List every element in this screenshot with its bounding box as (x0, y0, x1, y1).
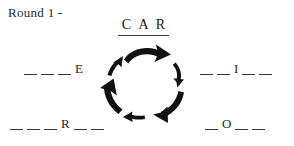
arrow-left-small (108, 61, 119, 76)
cycle-arrows-svg (99, 40, 195, 130)
clockwise-arrow-cycle (99, 40, 195, 130)
left-word-slot: E (22, 62, 85, 75)
round-label: Round 1 - (8, 6, 63, 19)
letter-cell: E (75, 62, 83, 75)
blank-cell (235, 119, 248, 130)
blank-cell (41, 64, 54, 75)
blank-cell (44, 119, 57, 130)
answer-letter-1: C (118, 18, 135, 36)
arrow-bottom-small (130, 115, 145, 120)
blank-cell (27, 119, 40, 130)
blank-cell (259, 64, 272, 75)
arrow-bottom-right-head (153, 107, 168, 124)
blank-cell (24, 64, 37, 75)
answer-letter-3: R (152, 18, 169, 36)
letter-cell: O (222, 117, 231, 130)
arrow-right-small-head (173, 78, 184, 87)
puzzle-canvas: Round 1 - C A R E I R O (0, 0, 294, 146)
answer-word-car: C A R (118, 18, 169, 36)
blank-cell (10, 119, 23, 130)
letter-cell: I (234, 62, 238, 75)
blank-cell (252, 119, 265, 130)
arrow-top-right-large (124, 48, 162, 63)
blank-cell (242, 64, 255, 75)
blank-cell (205, 119, 218, 130)
blank-cell (58, 64, 71, 75)
letter-cell: R (61, 117, 70, 130)
bottom-left-word-slot: R (8, 117, 106, 130)
arrow-group (100, 45, 184, 124)
blank-cell (217, 64, 230, 75)
answer-letter-2: A (135, 18, 152, 36)
blank-cell (200, 64, 213, 75)
arrow-bottom-small-head (123, 112, 133, 123)
right-word-slot: I (198, 62, 274, 75)
bottom-right-word-slot: O (203, 117, 267, 130)
blank-cell (74, 119, 87, 130)
